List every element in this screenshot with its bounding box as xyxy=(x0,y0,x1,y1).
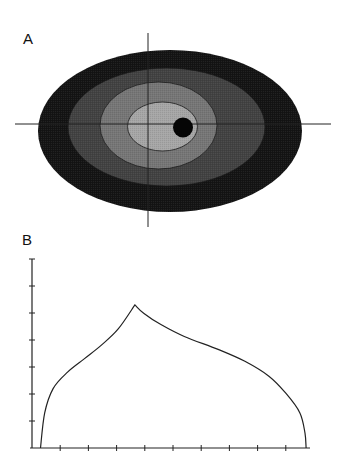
profile-curve xyxy=(41,305,307,448)
panel-b-line-plot xyxy=(0,0,349,467)
